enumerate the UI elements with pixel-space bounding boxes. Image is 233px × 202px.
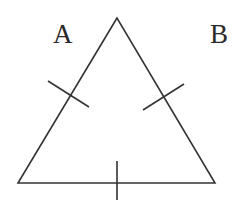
triangle-shape (18, 18, 215, 183)
vertex-label-a: A (53, 21, 73, 48)
vertex-label-b: B (210, 21, 228, 48)
tick-mark-left-side (48, 81, 89, 107)
triangle-diagram (0, 0, 233, 202)
tick-mark-right-side (143, 84, 184, 110)
